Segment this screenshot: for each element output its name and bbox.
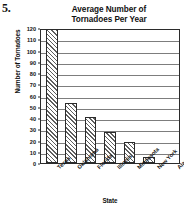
plot-area: [40, 29, 180, 164]
y-axis-tick-label: 40: [30, 116, 36, 122]
bar-slot: [120, 30, 139, 163]
bar-slot: [159, 30, 178, 163]
worksheet-page: 5. Average Number of Tornadoes Per Year …: [0, 0, 184, 209]
x-axis-tick-labels: TexasOklahomaFloridaIllinoisMinnesotaNew…: [40, 164, 180, 198]
y-axis-tick-label: 0: [33, 161, 36, 167]
bar-series: [41, 30, 179, 163]
problem-number: 5.: [2, 1, 11, 16]
chart-title-line-2: Tornadoes Per Year: [38, 15, 180, 25]
x-axis-title: State: [40, 197, 180, 204]
y-axis-tick-label: 70: [30, 82, 36, 88]
y-axis-tick-label: 20: [30, 139, 36, 145]
bar-slot: [61, 30, 80, 163]
bar-slot: [42, 30, 61, 163]
y-axis-tick-label: 10: [30, 150, 36, 156]
y-axis-tick-label: 80: [30, 71, 36, 77]
chart-title: Average Number of Tornadoes Per Year: [38, 5, 180, 25]
y-axis-tick-labels: 1201101009080706050403020100: [20, 29, 38, 164]
bar-slot: [139, 30, 158, 163]
y-axis-tick-label: 100: [27, 49, 36, 55]
bar-slot: [81, 30, 100, 163]
y-axis-tick-label: 50: [30, 105, 36, 111]
y-axis-tick-label: 90: [30, 60, 36, 66]
y-axis-tick-label: 110: [27, 37, 36, 43]
y-axis-tick-label: 30: [30, 127, 36, 133]
bar: [46, 29, 58, 163]
chart-title-line-1: Average Number of: [38, 5, 180, 15]
y-axis-tick-label: 120: [27, 26, 36, 32]
y-axis-tick-label: 60: [30, 94, 36, 100]
bar-slot: [100, 30, 119, 163]
